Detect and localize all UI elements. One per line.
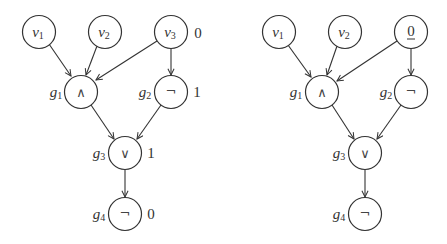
svg-text:¬: ¬ xyxy=(406,84,417,99)
gate-node-g1-and: ∧ xyxy=(306,76,339,109)
input-node-v1: v1 xyxy=(23,16,56,49)
right-circuit: v1 v2 0 g1 ∧ g2 ¬ g3 ∨ xyxy=(263,16,428,231)
svg-text:¬: ¬ xyxy=(166,84,177,99)
circuit-diagrams: v1 v2 v3 0 g1 ∧ g2 ¬ 1 g3 ∨ xyxy=(0,0,447,244)
svg-text:∧: ∧ xyxy=(76,85,86,100)
edge-v2-g1 xyxy=(86,46,97,75)
constant-node-zero: 0 xyxy=(395,16,428,49)
g2-label: g2 xyxy=(139,84,152,101)
g3-label: g3 xyxy=(333,145,346,162)
input-node-v3: v3 xyxy=(155,16,188,49)
g3-value: 1 xyxy=(147,145,155,161)
edge-g1-g3 xyxy=(91,105,114,139)
gate-node-g3-or: ∨ xyxy=(109,137,142,170)
edge-g2-g3 xyxy=(377,105,401,139)
edge-v1-g1 xyxy=(288,45,311,77)
svg-text:¬: ¬ xyxy=(360,206,371,221)
gate-node-g1-and: ∧ xyxy=(65,76,98,109)
svg-text:∨: ∨ xyxy=(360,146,370,161)
g2-label: g2 xyxy=(380,84,393,101)
edge-v1-g1 xyxy=(49,44,71,76)
g2-value: 1 xyxy=(193,84,201,100)
edge-g1-g3 xyxy=(332,105,354,139)
gate-node-g2-not: ¬ xyxy=(395,76,428,109)
gate-node-g4-not: ¬ xyxy=(349,198,382,231)
gate-node-g4-not: ¬ xyxy=(109,198,142,231)
input-node-v2: v2 xyxy=(89,16,122,49)
g1-label: g1 xyxy=(50,84,63,101)
edge-v2-g1 xyxy=(327,46,337,75)
g1-label: g1 xyxy=(290,84,303,101)
g3-label: g3 xyxy=(93,145,106,162)
g4-label: g4 xyxy=(93,206,106,223)
input-node-v1: v1 xyxy=(263,16,296,49)
input-node-v2: v2 xyxy=(329,16,362,49)
edge-g2-g3 xyxy=(137,105,161,139)
gate-node-g2-not: ¬ xyxy=(155,76,188,109)
v3-value: 0 xyxy=(194,25,202,41)
svg-text:¬: ¬ xyxy=(120,206,131,221)
svg-text:∨: ∨ xyxy=(120,146,130,161)
left-circuit: v1 v2 v3 0 g1 ∧ g2 ¬ 1 g3 ∨ xyxy=(23,16,202,231)
svg-text:0: 0 xyxy=(407,23,415,39)
g4-value: 0 xyxy=(147,206,155,222)
g4-label: g4 xyxy=(333,206,346,223)
gate-node-g3-or: ∨ xyxy=(349,137,382,170)
svg-text:∧: ∧ xyxy=(317,85,327,100)
